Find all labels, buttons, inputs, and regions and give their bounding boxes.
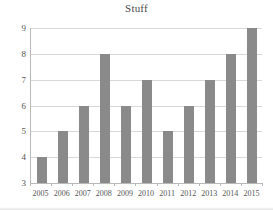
chart-title: Stuff [0,1,273,15]
bar [79,106,89,184]
bar [226,54,236,183]
x-tick [51,183,52,186]
y-tick-label: 5 [6,127,26,136]
plot-area [30,28,262,183]
bar [163,131,173,183]
y-tick-label: 3 [6,179,26,188]
y-tick-label: 8 [6,50,26,59]
bar [37,157,47,183]
x-tick [93,183,94,186]
x-tick [178,183,179,186]
x-tick [262,183,263,186]
bar [142,80,152,183]
x-tick [199,183,200,186]
bar-chart-figure: Stuff 3456789 20052006200720082009201020… [0,0,273,210]
x-tick [241,183,242,186]
x-tick [72,183,73,186]
y-tick-label: 6 [6,102,26,111]
x-tick-label: 2015 [238,189,264,199]
x-tick [157,183,158,186]
y-tick-label: 4 [6,153,26,162]
x-tick [114,183,115,186]
bar [247,28,257,183]
x-axis-ticks [30,183,262,187]
x-tick [135,183,136,186]
x-tick [30,183,31,186]
page-bottom-edge [0,207,273,210]
bar [205,80,215,183]
bars-group [31,28,262,183]
x-tick [220,183,221,186]
y-tick-label: 7 [6,76,26,85]
y-tick-label: 9 [6,24,26,33]
bar [184,106,194,184]
x-axis-tick-labels: 2005200620072008200920102011201220132014… [30,189,262,203]
y-axis-tick-labels: 3456789 [4,28,26,183]
bar [100,54,110,183]
bar [58,131,68,183]
bar [121,106,131,184]
